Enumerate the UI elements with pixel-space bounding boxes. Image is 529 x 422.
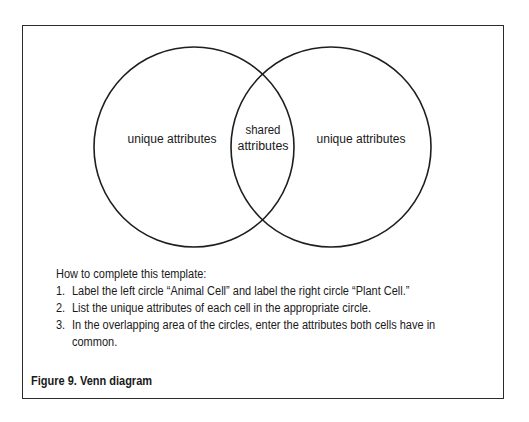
overlap-label-line2: attributes — [238, 139, 289, 153]
left-circle-label: unique attributes — [128, 132, 217, 146]
step-number: 2. — [56, 300, 65, 317]
overlap-label-line1: shared — [246, 123, 281, 137]
instructions-heading: How to complete this template: — [56, 266, 227, 283]
step-text-continuation: common. — [72, 334, 117, 351]
step-text: Label the left circle “Animal Cell” and … — [72, 283, 409, 300]
right-circle-label: unique attributes — [317, 132, 406, 146]
step-text: In the overlapping area of the circles, … — [72, 317, 435, 334]
instruction-step-2: 2. List the unique attributes of each ce… — [56, 300, 227, 317]
step-number: 1. — [56, 283, 65, 300]
instruction-step-1: 1. Label the left circle “Animal Cell” a… — [56, 283, 227, 300]
venn-diagram: unique attributes shared attributes uniq… — [0, 0, 529, 422]
step-text: List the unique attributes of each cell … — [72, 300, 371, 317]
instructions: How to complete this template: 1. Label … — [56, 266, 227, 351]
instructions-heading-text: How to complete this template: — [56, 266, 206, 283]
instruction-step-3: 3. In the overlapping area of the circle… — [56, 317, 227, 351]
figure-caption: Figure 9. Venn diagram — [31, 374, 169, 388]
figure-caption-text: Figure 9. Venn diagram — [31, 374, 152, 388]
step-number: 3. — [56, 317, 65, 334]
